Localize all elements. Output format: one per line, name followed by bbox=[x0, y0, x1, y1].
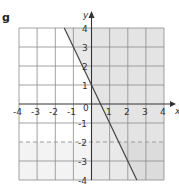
x-tick: 4 bbox=[160, 107, 166, 117]
y-tick: 2 bbox=[82, 62, 88, 72]
x-tick: 1 bbox=[106, 107, 112, 117]
x-tick: -2 bbox=[49, 107, 58, 117]
x-tick: -1 bbox=[67, 107, 76, 117]
y-tick: 4 bbox=[82, 24, 88, 34]
y-tick: -4 bbox=[78, 176, 87, 185]
y-axis-arrow-icon bbox=[89, 11, 95, 18]
x-tick: 3 bbox=[142, 107, 148, 117]
x-axis-label: x bbox=[174, 106, 179, 116]
y-tick: -2 bbox=[78, 138, 87, 148]
inequality-graph: y x -4 -3 -2 -1 0 1 2 3 4 4 3 2 1 -1 -2 … bbox=[0, 0, 179, 185]
x-tick: -4 bbox=[13, 107, 22, 117]
x-tick: 2 bbox=[124, 107, 130, 117]
y-tick: 3 bbox=[82, 43, 88, 53]
y-tick: 1 bbox=[82, 81, 88, 91]
origin-label: 0 bbox=[83, 103, 89, 113]
y-tick: -1 bbox=[78, 119, 87, 129]
x-tick: -3 bbox=[31, 107, 40, 117]
y-tick: -3 bbox=[78, 157, 87, 167]
y-axis-label: y bbox=[82, 10, 89, 20]
